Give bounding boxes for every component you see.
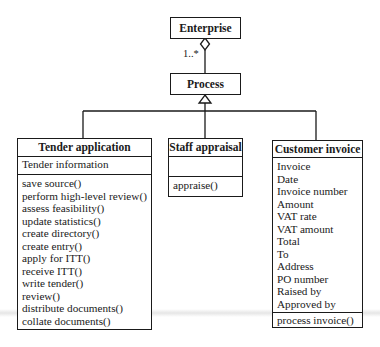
attributes-section: Tender information bbox=[18, 157, 151, 175]
operation: write tender() bbox=[22, 277, 147, 290]
operation: appraise() bbox=[173, 179, 238, 192]
attribute: PO number bbox=[277, 273, 358, 286]
multiplicity-label: 1..* bbox=[183, 48, 199, 59]
class-name: Tender application bbox=[18, 139, 151, 157]
attribute: Raised by bbox=[277, 285, 358, 298]
attribute: Total bbox=[277, 235, 358, 248]
attributes-section: Invoice Date Invoice number Amount VAT r… bbox=[273, 158, 362, 313]
operation: receive ITT() bbox=[22, 265, 147, 278]
operation: perform high-level review() bbox=[22, 190, 147, 203]
operation: assess feasibility() bbox=[22, 202, 147, 215]
operation: process invoice() bbox=[277, 314, 358, 327]
operation: collate documents() bbox=[22, 315, 147, 328]
operations-section: process invoice() bbox=[273, 313, 362, 328]
class-name: Enterprise bbox=[179, 22, 231, 34]
attributes-section bbox=[169, 157, 242, 177]
generalization-triangle-icon bbox=[199, 95, 211, 103]
attribute: VAT rate bbox=[277, 210, 358, 223]
aggregation-diamond-icon bbox=[201, 38, 210, 50]
class-customer-invoice[interactable]: Customer invoice Invoice Date Invoice nu… bbox=[272, 140, 363, 328]
attribute: Invoice number bbox=[277, 185, 358, 198]
operations-section: appraise() bbox=[169, 177, 242, 193]
attribute: Amount bbox=[277, 198, 358, 211]
class-name: Staff appraisal bbox=[169, 139, 242, 157]
class-enterprise[interactable]: Enterprise bbox=[170, 17, 241, 39]
attribute: Approved by bbox=[277, 298, 358, 311]
attribute: VAT amount bbox=[277, 223, 358, 236]
class-process[interactable]: Process bbox=[170, 73, 241, 95]
operation: save source() bbox=[22, 177, 147, 190]
operation: create directory() bbox=[22, 227, 147, 240]
attribute: Tender information bbox=[22, 158, 147, 171]
class-tender-application[interactable]: Tender application Tender information sa… bbox=[17, 138, 152, 330]
class-staff-appraisal[interactable]: Staff appraisal appraise() bbox=[168, 138, 243, 197]
attribute: Invoice bbox=[277, 160, 358, 173]
operation: create entry() bbox=[22, 240, 147, 253]
operation: update statistics() bbox=[22, 215, 147, 228]
attribute: Date bbox=[277, 173, 358, 186]
class-name: Customer invoice bbox=[273, 141, 362, 158]
attribute: Address bbox=[277, 260, 358, 273]
attribute: To bbox=[277, 248, 358, 261]
operation: review() bbox=[22, 290, 147, 303]
class-name: Process bbox=[187, 78, 224, 90]
operations-section: save source() perform high-level review(… bbox=[18, 175, 151, 328]
operation: apply for ITT() bbox=[22, 252, 147, 265]
operation: distribute documents() bbox=[22, 302, 147, 315]
